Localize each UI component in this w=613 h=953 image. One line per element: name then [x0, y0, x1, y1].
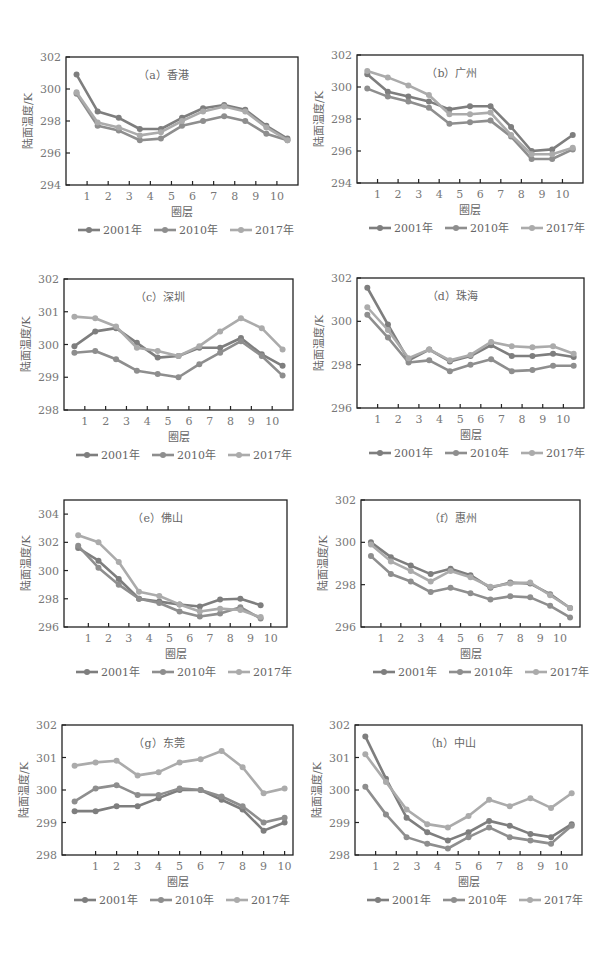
y-tick-label: 296 — [38, 621, 59, 634]
x-tick-label: 7 — [206, 632, 213, 645]
x-tick-label: 4 — [437, 632, 444, 645]
legend-label: 2010年 — [179, 223, 218, 237]
x-tick-label: 4 — [155, 860, 162, 873]
x-axis-label: 圈层 — [165, 648, 187, 661]
x-tick-label: 4 — [147, 190, 154, 203]
data-point — [156, 792, 162, 798]
x-tick-label: 6 — [477, 188, 484, 201]
legend-marker-icon — [377, 450, 383, 456]
x-tick-label: 7 — [497, 632, 504, 645]
legend-marker-icon — [86, 227, 92, 233]
x-tick-label: 3 — [415, 188, 422, 201]
data-point — [135, 792, 141, 798]
data-point — [240, 803, 246, 809]
data-point — [258, 602, 264, 608]
x-tick-label: 9 — [537, 632, 544, 645]
data-point — [261, 820, 267, 826]
legend-label: 2001年 — [101, 665, 140, 679]
data-point — [219, 748, 225, 754]
data-point — [466, 813, 472, 819]
y-tick-label: 302 — [329, 719, 350, 732]
x-tick-label: 9 — [252, 190, 259, 203]
data-point — [445, 846, 451, 852]
y-axis-label: 陆面温度/K — [19, 316, 33, 373]
data-point — [527, 837, 533, 843]
data-point — [487, 584, 493, 590]
data-point — [156, 600, 162, 606]
data-point — [446, 121, 452, 127]
data-point — [488, 103, 494, 109]
legend-item: 2001年 — [367, 893, 431, 907]
legend-item: 2001年 — [369, 221, 433, 235]
legend-label: 2010年 — [177, 665, 216, 679]
y-tick-label: 296 — [331, 402, 352, 415]
legend-label: 2001年 — [398, 665, 437, 679]
data-point — [569, 823, 575, 829]
y-axis-label: 陆面温度/K — [310, 761, 324, 818]
data-point — [507, 803, 513, 809]
data-point — [529, 367, 535, 373]
data-point — [426, 357, 432, 363]
x-tick-label: 3 — [126, 190, 133, 203]
series-line-2017年 — [78, 535, 260, 617]
data-point — [259, 325, 265, 331]
data-point — [529, 151, 535, 157]
x-tick-label: 8 — [227, 415, 234, 428]
data-point — [237, 596, 243, 602]
x-axis-label: 圈层 — [460, 648, 482, 661]
chart-panel-a: 29429629830030212345678910圈层陆面温度/K（a）香港2… — [21, 51, 298, 237]
data-point — [488, 118, 494, 124]
data-point — [527, 795, 533, 801]
x-tick-label: 2 — [395, 188, 402, 201]
series-line-2001年 — [75, 790, 285, 831]
data-point — [385, 327, 391, 333]
x-tick-label: 1 — [377, 632, 384, 645]
legend-item: 2017年 — [228, 448, 292, 462]
data-point — [426, 347, 432, 353]
data-point — [362, 733, 368, 739]
data-point — [217, 350, 223, 356]
data-point — [385, 74, 391, 80]
data-point — [527, 831, 533, 837]
x-tick-label: 2 — [105, 632, 112, 645]
y-tick-label: 298 — [38, 593, 59, 606]
x-tick-label: 5 — [457, 632, 464, 645]
y-tick-label: 298 — [331, 113, 352, 126]
legend-marker-icon — [453, 225, 459, 231]
data-point — [263, 131, 269, 137]
y-tick-label: 299 — [38, 371, 59, 384]
x-tick-label: 10 — [270, 190, 284, 203]
data-point — [428, 578, 434, 584]
data-point — [529, 353, 535, 359]
legend-label: 2001年 — [103, 223, 142, 237]
data-point — [282, 815, 288, 821]
legend-label: 2017年 — [550, 665, 589, 679]
legend-item: 2017年 — [521, 446, 585, 460]
y-tick-label: 298 — [36, 849, 57, 862]
y-axis-label: 陆面温度/K — [21, 92, 35, 149]
x-tick-label: 6 — [197, 860, 204, 873]
legend-marker-icon — [529, 225, 535, 231]
x-tick-label: 9 — [538, 188, 545, 201]
series-line-2010年 — [78, 546, 260, 619]
data-point — [550, 363, 556, 369]
data-point — [428, 589, 434, 595]
data-point — [509, 353, 515, 359]
y-tick-label: 302 — [38, 536, 59, 549]
legend-item: 2017年 — [521, 221, 585, 235]
x-tick-label: 5 — [166, 632, 173, 645]
data-point — [135, 803, 141, 809]
data-point — [364, 312, 370, 318]
data-point — [550, 351, 556, 357]
data-point — [155, 355, 161, 361]
data-point — [405, 98, 411, 104]
x-tick-label: 6 — [477, 413, 484, 426]
data-point — [75, 543, 81, 549]
data-point — [368, 553, 374, 559]
data-point — [364, 68, 370, 74]
legend-label: 2001年 — [394, 221, 433, 235]
legend-marker-icon — [158, 897, 164, 903]
data-point — [200, 118, 206, 124]
data-point — [93, 808, 99, 814]
x-tick-label: 4 — [434, 860, 441, 873]
